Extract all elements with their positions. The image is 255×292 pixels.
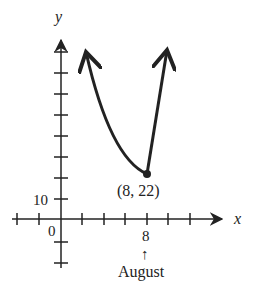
- y-tick-label-10: 10: [33, 192, 48, 208]
- x-tick-label-8: 8: [142, 228, 150, 244]
- vertex-label: (8, 22): [117, 182, 160, 200]
- y-axis: [54, 40, 68, 268]
- graph: y x 10 0 8 (8, 22) ↑ August: [0, 0, 255, 292]
- curve: [86, 50, 167, 178]
- annotation-label: August: [118, 263, 165, 281]
- x-axis-label: x: [233, 210, 241, 227]
- vertex-point: [143, 170, 151, 178]
- y-axis-label: y: [53, 8, 63, 26]
- x-axis: [12, 213, 222, 225]
- origin-label: 0: [48, 223, 56, 239]
- annotation-arrow: ↑: [141, 246, 149, 262]
